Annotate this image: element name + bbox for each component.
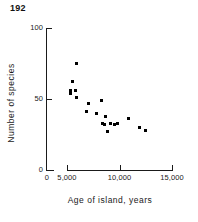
data-point xyxy=(85,110,88,113)
data-point xyxy=(71,80,74,83)
data-point xyxy=(87,102,90,105)
y-tick-0 xyxy=(47,170,52,171)
x-tick-label-10000: 10,000 xyxy=(100,173,140,182)
y-axis-title: Number of species xyxy=(6,48,16,158)
scatter-chart-figure: 050100 05,00010,00015,000 Number of spec… xyxy=(0,0,198,222)
data-point xyxy=(69,92,72,95)
x-tick-label-5000: 5,000 xyxy=(47,173,87,182)
data-point xyxy=(106,130,109,133)
x-tick-label-15000: 15,000 xyxy=(152,173,192,182)
data-point xyxy=(74,89,77,92)
data-point xyxy=(109,122,112,125)
data-point xyxy=(127,117,130,120)
y-tick-label-50: 50 xyxy=(15,94,43,103)
data-point xyxy=(103,123,106,126)
data-point xyxy=(75,96,78,99)
data-point xyxy=(75,62,78,65)
y-tick-100 xyxy=(47,28,52,29)
data-point xyxy=(104,115,107,118)
y-tick-label-100: 100 xyxy=(15,23,43,32)
x-axis-main-segment xyxy=(67,170,173,171)
data-point xyxy=(100,99,103,102)
data-point xyxy=(95,112,98,115)
data-point xyxy=(144,129,147,132)
x-axis-title: Age of island, years xyxy=(40,195,180,205)
x-tick-15000 xyxy=(172,165,173,170)
data-point xyxy=(138,126,141,129)
data-point xyxy=(116,122,119,125)
x-tick-10000 xyxy=(120,165,121,170)
x-tick-5000 xyxy=(67,165,68,170)
y-tick-50 xyxy=(47,99,52,100)
